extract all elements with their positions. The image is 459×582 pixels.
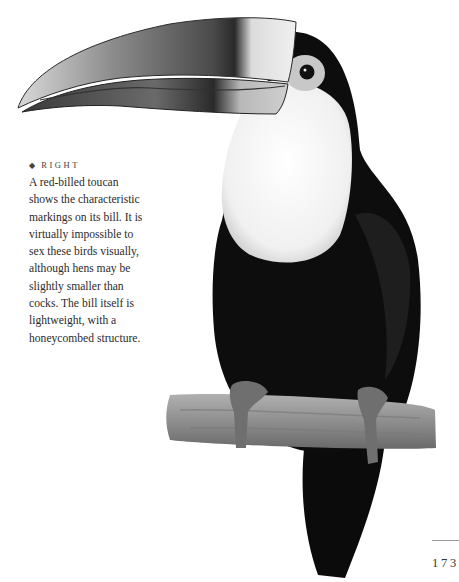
caption-line: honeycombed structure. xyxy=(29,330,189,347)
photo-caption: ◆RIGHT A red-billed toucan shows the cha… xyxy=(29,158,189,347)
caption-line: sex these birds visually, xyxy=(29,243,189,260)
caption-line: shows the characteristic xyxy=(29,191,189,208)
eye xyxy=(300,65,315,80)
page-number: 173 xyxy=(432,556,459,571)
caption-line: markings on its bill. It is xyxy=(29,209,189,226)
folio-rule xyxy=(432,540,459,541)
caption-kicker-label: RIGHT xyxy=(41,160,80,170)
caption-line: A red-billed toucan xyxy=(29,174,189,191)
caption-line: lightweight, with a xyxy=(29,312,189,329)
caption-line: cocks. The bill itself is xyxy=(29,295,189,312)
caption-line: although hens may be xyxy=(29,260,189,277)
caption-kicker: ◆RIGHT xyxy=(29,158,189,173)
caption-line: slightly smaller than xyxy=(29,278,189,295)
caption-line: virtually impossible to xyxy=(29,226,189,243)
diamond-bullet-icon: ◆ xyxy=(29,161,35,170)
